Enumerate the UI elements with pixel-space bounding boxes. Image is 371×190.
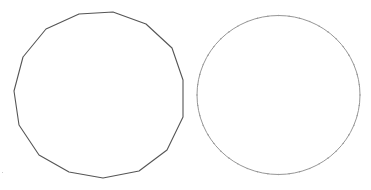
- vertex-marker: [288, 15, 289, 16]
- vertex-marker: [213, 143, 214, 144]
- vertex-marker: [288, 173, 289, 174]
- vertex-marker: [207, 134, 208, 135]
- vertex-marker: [228, 157, 229, 158]
- vertex-marker: [257, 18, 258, 19]
- shapes-diagram: [0, 0, 371, 190]
- vertex-marker: [196, 94, 197, 95]
- vertex-marker: [335, 151, 336, 152]
- vertex-marker: [237, 25, 238, 26]
- vertex-marker: [353, 125, 354, 126]
- speck: [2, 172, 3, 173]
- vertex-marker: [342, 46, 343, 47]
- vertex-marker: [348, 55, 349, 56]
- vertex-marker: [207, 55, 208, 56]
- vertex-marker: [309, 168, 310, 169]
- vertex-marker: [319, 163, 320, 164]
- vertex-marker: [348, 134, 349, 135]
- vertex-marker: [359, 84, 360, 85]
- vertex-marker: [359, 94, 360, 95]
- vertex-marker: [267, 173, 268, 174]
- vertex-marker: [203, 125, 204, 126]
- vertex-marker: [247, 168, 248, 169]
- vertex-marker: [267, 15, 268, 16]
- drawing-canvas: [0, 0, 371, 190]
- vertex-marker: [335, 38, 336, 39]
- vertex-marker: [213, 46, 214, 47]
- circle-vertex-markers: [196, 15, 360, 175]
- vertex-marker: [278, 15, 279, 16]
- vertex-marker: [197, 105, 198, 106]
- vertex-marker: [237, 163, 238, 164]
- vertex-marker: [278, 174, 279, 175]
- vertex-marker: [220, 151, 221, 152]
- vertex-marker: [327, 157, 328, 158]
- circle-shape: [197, 16, 360, 175]
- vertex-marker: [357, 115, 358, 116]
- vertex-marker: [247, 21, 248, 22]
- polygon-shape: [14, 12, 183, 178]
- vertex-marker: [353, 64, 354, 65]
- vertex-marker: [199, 115, 200, 116]
- vertex-marker: [299, 171, 300, 172]
- vertex-marker: [327, 31, 328, 32]
- vertex-marker: [309, 21, 310, 22]
- vertex-marker: [220, 38, 221, 39]
- vertex-marker: [342, 143, 343, 144]
- vertex-marker: [199, 74, 200, 75]
- vertex-marker: [359, 105, 360, 106]
- vertex-marker: [357, 74, 358, 75]
- vertex-marker: [319, 25, 320, 26]
- vertex-marker: [203, 64, 204, 65]
- vertex-marker: [197, 84, 198, 85]
- vertex-marker: [257, 171, 258, 172]
- vertex-marker: [299, 18, 300, 19]
- vertex-marker: [228, 31, 229, 32]
- stray-specks: [2, 172, 3, 173]
